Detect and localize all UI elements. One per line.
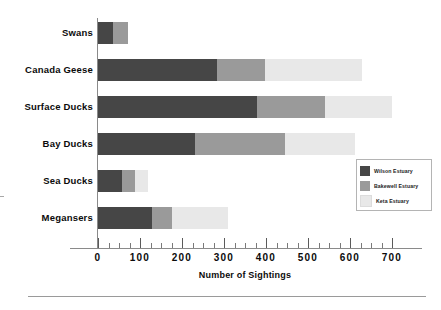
legend-swatch-icon <box>360 195 372 207</box>
x-tick-label: 600 <box>340 252 360 263</box>
bar-segment[interactable] <box>172 207 228 229</box>
bar-segment[interactable] <box>285 133 355 155</box>
x-axis-tick-labels: 0100200300400500600700 <box>98 252 392 266</box>
category-label: Sea Ducks <box>1 170 93 192</box>
bar-segment[interactable] <box>325 96 392 118</box>
category-label: Swans <box>1 22 93 44</box>
bar-row[interactable] <box>98 133 355 155</box>
x-tick-major <box>140 238 141 248</box>
bar-segment[interactable] <box>152 207 172 229</box>
x-tick-minor <box>340 243 341 248</box>
bar-segment[interactable] <box>98 207 152 229</box>
x-tick-minor <box>382 243 383 248</box>
x-tick-minor <box>130 243 131 248</box>
bottom-divider-rule <box>28 296 426 297</box>
x-tick-minor <box>119 243 120 248</box>
left-edge-mark <box>0 196 4 197</box>
x-tick-major <box>350 238 351 248</box>
x-tick-minor <box>235 243 236 248</box>
legend-label: Keta Estuary <box>376 198 409 204</box>
x-tick-minor <box>193 243 194 248</box>
x-tick-label: 0 <box>95 252 102 263</box>
bar-row[interactable] <box>98 207 228 229</box>
x-tick-major <box>392 238 393 248</box>
x-tick-minor <box>256 243 257 248</box>
bar-segment[interactable] <box>195 133 285 155</box>
legend-item[interactable]: Wilson Estuary <box>360 164 428 178</box>
x-tick-label: 100 <box>130 252 150 263</box>
bar-segment[interactable] <box>135 170 148 192</box>
bar-chart-figure: SwansCanada GeeseSurface DucksBay DucksS… <box>0 0 441 310</box>
bar-segment[interactable] <box>98 170 122 192</box>
x-tick-minor <box>214 243 215 248</box>
x-axis-line <box>70 248 422 249</box>
bar-row[interactable] <box>98 59 362 81</box>
legend-label: Wilson Estuary <box>374 168 413 174</box>
x-tick-label: 200 <box>172 252 192 263</box>
x-tick-major <box>224 238 225 248</box>
x-tick-minor <box>245 243 246 248</box>
bar-segment[interactable] <box>113 22 128 44</box>
x-tick-label: 300 <box>214 252 234 263</box>
x-tick-major <box>182 238 183 248</box>
legend-item[interactable]: Keta Estuary <box>360 194 428 208</box>
x-tick-minor <box>203 243 204 248</box>
bar-row[interactable] <box>98 22 128 44</box>
legend-swatch-icon <box>360 166 370 176</box>
legend-label: Bakewell Estuary <box>374 183 418 189</box>
chart-legend: Wilson EstuaryBakewell EstuaryKeta Estua… <box>356 159 432 211</box>
x-tick-minor <box>172 243 173 248</box>
x-tick-minor <box>109 243 110 248</box>
bar-segment[interactable] <box>257 96 325 118</box>
bar-segment[interactable] <box>217 59 265 81</box>
bar-segment[interactable] <box>98 96 257 118</box>
x-tick-minor <box>371 243 372 248</box>
x-tick-minor <box>151 243 152 248</box>
x-tick-minor <box>161 243 162 248</box>
bar-segment[interactable] <box>265 59 362 81</box>
bar-segment[interactable] <box>98 133 195 155</box>
x-tick-major <box>98 238 99 248</box>
category-label: Canada Geese <box>1 59 93 81</box>
x-tick-minor <box>277 243 278 248</box>
x-tick-label: 400 <box>256 252 276 263</box>
category-label: Megansers <box>1 207 93 229</box>
x-tick-label: 500 <box>298 252 318 263</box>
x-tick-major <box>266 238 267 248</box>
legend-swatch-icon <box>360 181 370 191</box>
bar-row[interactable] <box>98 96 392 118</box>
x-tick-label: 700 <box>382 252 402 263</box>
x-tick-minor <box>298 243 299 248</box>
category-label-column: SwansCanada GeeseSurface DucksBay DucksS… <box>0 18 93 240</box>
x-axis-ticks <box>98 238 392 248</box>
x-axis-title: Number of Sightings <box>98 270 392 280</box>
bar-segment[interactable] <box>98 59 217 81</box>
bar-segment[interactable] <box>98 22 113 44</box>
x-tick-minor <box>329 243 330 248</box>
legend-item[interactable]: Bakewell Estuary <box>360 179 428 193</box>
category-label: Surface Ducks <box>1 96 93 118</box>
plot-area <box>98 18 392 240</box>
bar-segment[interactable] <box>122 170 135 192</box>
category-label: Bay Ducks <box>1 133 93 155</box>
x-tick-minor <box>361 243 362 248</box>
x-tick-major <box>308 238 309 248</box>
bar-row[interactable] <box>98 170 148 192</box>
x-tick-minor <box>287 243 288 248</box>
x-tick-minor <box>319 243 320 248</box>
